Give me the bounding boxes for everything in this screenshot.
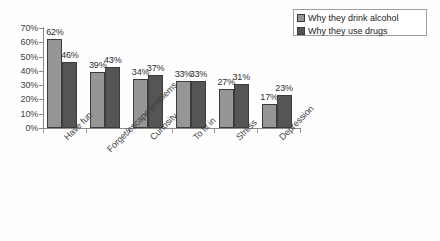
y-axis-tick xyxy=(39,57,43,58)
legend-item-1: Why they use drugs xyxy=(297,25,423,37)
legend-label: Why they drink alcohol xyxy=(308,14,399,23)
y-axis-tick xyxy=(39,128,43,129)
y-axis-tick xyxy=(39,28,43,29)
y-axis-tick xyxy=(39,99,43,100)
legend-swatch-icon xyxy=(297,14,305,22)
chart-legend: Why they drink alcohol Why they use drug… xyxy=(293,9,427,36)
y-axis-tick xyxy=(39,85,43,86)
y-axis-tick xyxy=(39,114,43,115)
legend-swatch-icon xyxy=(297,27,305,35)
legend-label: Why they use drugs xyxy=(308,27,388,36)
y-axis-tick xyxy=(39,42,43,43)
bar-chart: 70%60%50%40%30%20%10%0% 62%46%39%43%34%3… xyxy=(0,0,440,241)
y-axis-tick xyxy=(39,71,43,72)
legend-item-0: Why they drink alcohol xyxy=(297,12,423,24)
category-labels: Have funForget/escape problemsCuriosityT… xyxy=(0,133,440,241)
